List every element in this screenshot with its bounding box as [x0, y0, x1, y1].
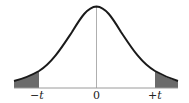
distribution-plot: [0, 0, 189, 103]
label-zero: 0: [93, 90, 100, 101]
t-distribution-figure: −t 0 +t: [0, 0, 189, 103]
bell-curve: [14, 7, 178, 82]
label-plus-t: +t: [148, 90, 162, 101]
label-minus-t: −t: [30, 90, 44, 101]
